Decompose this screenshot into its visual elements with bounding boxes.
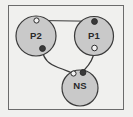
node-ns[interactable]: NS (62, 70, 98, 106)
port-ns-right-filled-icon[interactable] (80, 70, 86, 76)
port-p1-top-filled-icon[interactable] (92, 19, 98, 25)
node-p2[interactable]: P2 (16, 16, 56, 56)
port-p2-bottom-filled-icon[interactable] (40, 46, 46, 52)
node-p2-label: P2 (30, 30, 42, 41)
diagram-canvas: P2 P1 NS (0, 0, 133, 117)
port-p1-bottom-open-icon[interactable] (92, 45, 98, 51)
port-p2-top-open-icon[interactable] (34, 18, 39, 23)
node-graph-diagram: P2 P1 NS (0, 0, 133, 117)
node-p1-label: P1 (88, 30, 101, 41)
node-ns-label: NS (73, 80, 87, 91)
node-p1[interactable]: P1 (75, 17, 114, 56)
port-ns-left-open-icon[interactable] (71, 71, 76, 76)
